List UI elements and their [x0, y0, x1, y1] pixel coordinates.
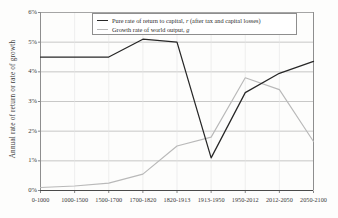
legend-item-g: Growth rate of world output, g	[97, 26, 292, 34]
chart-legend: Pure rate of return to capital, r (after…	[92, 13, 297, 35]
legend-swatch-r-icon	[97, 20, 108, 21]
legend-label-g: Growth rate of world output, g	[112, 26, 189, 34]
x-tick-label: 2050-2100	[284, 196, 338, 203]
chart-figure: Annual rate of return or rate of growth …	[0, 0, 338, 218]
legend-swatch-g-icon	[97, 29, 108, 30]
legend-label-r: Pure rate of return to capital, r (after…	[112, 17, 261, 25]
legend-item-r: Pure rate of return to capital, r (after…	[97, 17, 292, 25]
